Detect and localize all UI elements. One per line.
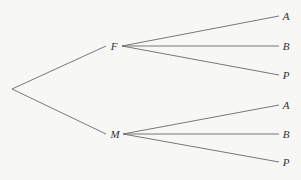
leaf-label-F-B: B [283, 41, 290, 52]
leaf-label-M-B: B [283, 129, 290, 140]
leaf-label-M-P: P [283, 157, 290, 168]
node-label-F: F [111, 41, 118, 52]
edge-M-A [123, 105, 279, 134]
leaf-label-F-A: A [283, 11, 290, 22]
node-label-M: M [110, 129, 119, 140]
edge-F-A [122, 16, 279, 46]
tree-diagram: F M A B P A B P [0, 0, 301, 180]
leaf-label-M-A: A [283, 100, 290, 111]
leaf-label-F-P: P [283, 70, 290, 81]
edge-root-M [12, 89, 106, 134]
edge-root-F [12, 46, 106, 89]
tree-edges [0, 0, 301, 180]
edge-F-P [122, 46, 279, 75]
edge-M-P [123, 134, 279, 162]
